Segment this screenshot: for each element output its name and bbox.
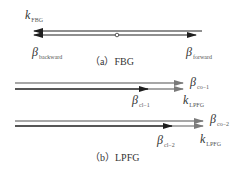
label-beta-co1: βco−1 (190, 76, 209, 93)
label-k-lpfg2: kLPFG (200, 133, 221, 150)
label-k-fbg: kFBG (25, 9, 43, 26)
caption-b: （b）LPFG (90, 153, 139, 163)
label-beta-backward: βbackward (32, 46, 62, 63)
origin-point (115, 33, 119, 37)
label-beta-co2: βco−2 (210, 113, 229, 130)
label-beta-cl1: βcl−1 (132, 94, 150, 111)
label-beta-cl2: βcl−2 (157, 134, 175, 151)
caption-a: （a）FBG (90, 57, 134, 67)
label-beta-forward: βforward (186, 46, 212, 63)
label-k-lpfg1: kLPFG (183, 94, 204, 111)
